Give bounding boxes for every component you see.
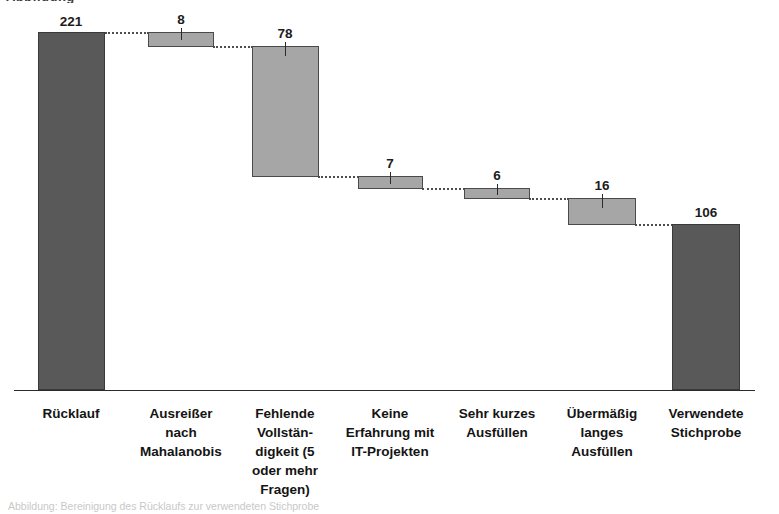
x-axis-line	[14, 390, 755, 391]
connector-4-5	[422, 188, 465, 190]
plot-area: 221 8 78 7 6 16 106	[0, 0, 779, 396]
value-label-sehr-kurzes-ausfuellen: 6	[493, 168, 501, 183]
value-label-fehlende-vollstaendigkeit: 78	[277, 26, 292, 41]
category-line: Stichprobe	[636, 423, 776, 442]
connector-6-7	[635, 224, 673, 226]
bar-ruecklauf[interactable]	[38, 32, 105, 390]
value-label-ausreisser-mahalanobis: 8	[177, 12, 185, 27]
category-line: Fragen)	[225, 480, 345, 499]
category-line: Ausfüllen	[537, 442, 667, 461]
connector-5-6	[529, 198, 569, 200]
figure-caption: Abbildung: Bereinigung des Rücklaufs zur…	[8, 500, 708, 514]
connector-2-3	[213, 46, 253, 48]
connector-3-4	[318, 176, 359, 178]
value-label-keine-erfahrung: 7	[386, 156, 394, 171]
value-label-verwendete-stichprobe: 106	[695, 205, 718, 220]
category-line: oder mehr	[225, 461, 345, 480]
value-tick-6	[602, 194, 603, 208]
bar-verwendete-stichprobe[interactable]	[672, 224, 740, 390]
category-label-verwendete-stichprobe: Verwendete Stichprobe	[636, 404, 776, 442]
category-line: Verwendete	[636, 404, 776, 423]
connector-1-2	[105, 32, 149, 34]
x-axis-category-labels: Rücklauf Ausreißer nach Mahalanobis Fehl…	[0, 398, 779, 498]
value-tick-2	[181, 28, 182, 40]
value-tick-3	[285, 42, 286, 56]
value-label-uebermaessig-langes-ausfuellen: 16	[594, 178, 609, 193]
value-tick-5	[497, 184, 498, 195]
value-label-ruecklauf: 221	[60, 14, 83, 29]
value-tick-4	[390, 172, 391, 184]
waterfall-chart: Abbildung 221 8 78 7 6 16 106	[0, 0, 779, 514]
bar-fehlende-vollstaendigkeit[interactable]	[252, 46, 319, 177]
category-line: IT-Projekten	[315, 442, 465, 461]
